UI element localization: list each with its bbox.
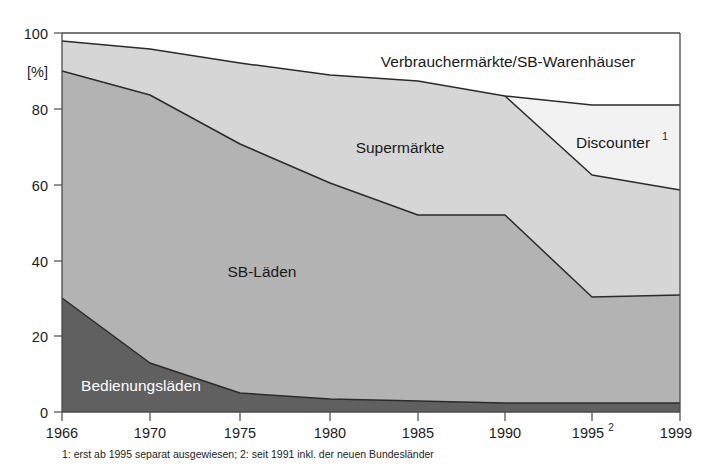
y-tick-label-0: 0 bbox=[40, 405, 48, 421]
x-tick-label-1985: 1985 bbox=[402, 425, 434, 441]
y-tick-marks bbox=[54, 33, 62, 412]
x-tick-label-1995-group: 1995 2 bbox=[572, 422, 614, 441]
y-tick-label-80: 80 bbox=[32, 102, 48, 118]
y-tick-label-100: 100 bbox=[24, 26, 48, 42]
chart-footnote: 1: erst ab 1995 separat ausgewiesen; 2: … bbox=[62, 448, 434, 460]
series-label-supermaerkte: Supermärkte bbox=[356, 139, 445, 156]
series-label-sb-laeden: SB-Läden bbox=[228, 263, 297, 280]
series-label-discounter: Discounter bbox=[576, 134, 650, 151]
chart-svg: 100 80 60 40 20 0 [%] 1966 1970 1975 198… bbox=[0, 0, 714, 475]
figure-stacked-area-chart: 100 80 60 40 20 0 [%] 1966 1970 1975 198… bbox=[0, 0, 714, 475]
x-tick-label-1966: 1966 bbox=[46, 425, 78, 441]
y-tick-label-60: 60 bbox=[32, 178, 48, 194]
x-tick-label-1999: 1999 bbox=[660, 425, 692, 441]
x-tick-marks bbox=[62, 412, 680, 421]
x-tick-label-1980: 1980 bbox=[314, 425, 346, 441]
series-label-bedienungslaeden: Bedienungsläden bbox=[81, 377, 201, 394]
x-tick-label-1995: 1995 bbox=[572, 425, 604, 441]
x-tick-label-1995-superscript: 2 bbox=[608, 422, 614, 433]
y-tick-label-20: 20 bbox=[32, 329, 48, 345]
series-label-discounter-superscript: 1 bbox=[662, 131, 668, 142]
y-tick-label-40: 40 bbox=[32, 254, 48, 270]
x-tick-label-1990: 1990 bbox=[489, 425, 521, 441]
x-tick-label-1975: 1975 bbox=[224, 425, 256, 441]
y-axis-unit-label: [%] bbox=[27, 64, 48, 80]
x-tick-label-1970: 1970 bbox=[134, 425, 166, 441]
series-label-verbrauchermaerkte: Verbrauchermärkte/SB-Warenhäuser bbox=[381, 53, 635, 70]
